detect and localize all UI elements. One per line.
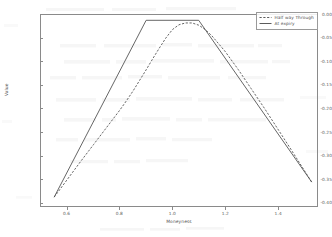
xtick-mark — [278, 207, 279, 210]
xtick-label-2: 1.0 — [157, 211, 187, 216]
legend-label-at-expiry: At expiry — [275, 21, 295, 26]
xtick-mark — [172, 207, 173, 210]
legend: Half way Through At expiry — [256, 12, 318, 30]
series-half-way-through — [54, 23, 312, 197]
solid-line-icon — [259, 21, 272, 26]
chart-figure: 0.00 -0.05 -0.10 -0.15 -0.20 -0.25 -0.30… — [0, 0, 332, 237]
xtick-label-4: 1.4 — [263, 211, 293, 216]
xtick-mark — [67, 207, 68, 210]
xtick-label-1: 0.8 — [104, 211, 134, 216]
legend-label-half-way-through: Half way Through — [275, 15, 314, 20]
y-axis-label: Value — [4, 83, 10, 96]
xtick-label-3: 1.2 — [210, 211, 240, 216]
plot-area — [40, 14, 318, 207]
x-axis-label: Moneyness — [40, 219, 318, 225]
xtick-mark — [225, 207, 226, 210]
dashed-line-icon — [259, 15, 272, 20]
series-at-expiry — [54, 20, 312, 197]
xtick-mark — [119, 207, 120, 210]
legend-row-at-expiry: At expiry — [259, 21, 315, 27]
legend-row-half-way-through: Half way Through — [259, 15, 315, 21]
xtick-label-0: 0.6 — [52, 211, 82, 216]
series-canvas — [41, 15, 317, 206]
